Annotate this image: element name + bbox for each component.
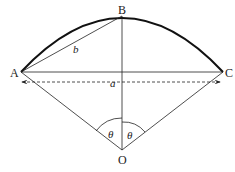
radius-oc <box>122 72 223 150</box>
radius-oa <box>21 72 122 150</box>
label-b: b <box>73 43 79 55</box>
label-theta-right: θ <box>127 129 133 141</box>
point-label-a: A <box>10 66 19 80</box>
label-a: a <box>110 77 116 89</box>
angle-arc-right <box>122 122 145 132</box>
point-label-o: O <box>118 153 127 167</box>
point-label-c: C <box>225 66 233 80</box>
chord-ab <box>21 16 122 72</box>
label-theta-left: θ <box>108 128 114 140</box>
point-label-b: B <box>118 3 126 17</box>
circular-arc-diagram: A B C O a b θ θ <box>0 0 235 172</box>
